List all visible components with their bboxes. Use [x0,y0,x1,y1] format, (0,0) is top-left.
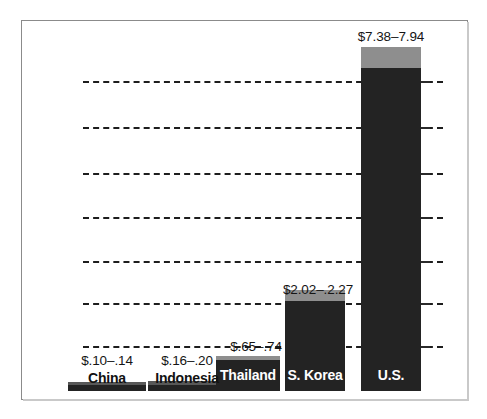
bar-range-cap [361,47,421,68]
bar-category-label: U.S. [361,367,421,383]
bar-category-label: Indonesia [148,370,226,386]
gridline-tick [421,173,430,175]
gridline-tick [421,81,430,83]
bar-value-label: $.16–.20 [148,353,226,368]
bar-category-label: S. Korea [285,367,345,383]
bar-category-label: Thailand [216,367,280,383]
gridline-tick [421,261,430,263]
bar-value-label: $2.02–.2.27 [278,282,358,297]
chart-screenshot: $.10–.14China$.16–.20Indonesia$.65–.74Th… [0,0,487,419]
gridline-tick [421,303,430,305]
bar-value-label: $.65–.74 [214,339,298,354]
bar-body [361,68,421,391]
chart-plot-frame: $.10–.14China$.16–.20Indonesia$.65–.74Th… [21,20,468,400]
gridline-tick [421,217,430,219]
gridline-tick [421,346,430,348]
gridline-tick [421,127,430,129]
bar-category-label: China [68,370,146,386]
bar-value-label: $.10–.14 [68,353,146,368]
bar-u-s [361,47,421,391]
bar-value-label: $7.38–7.94 [351,29,431,44]
